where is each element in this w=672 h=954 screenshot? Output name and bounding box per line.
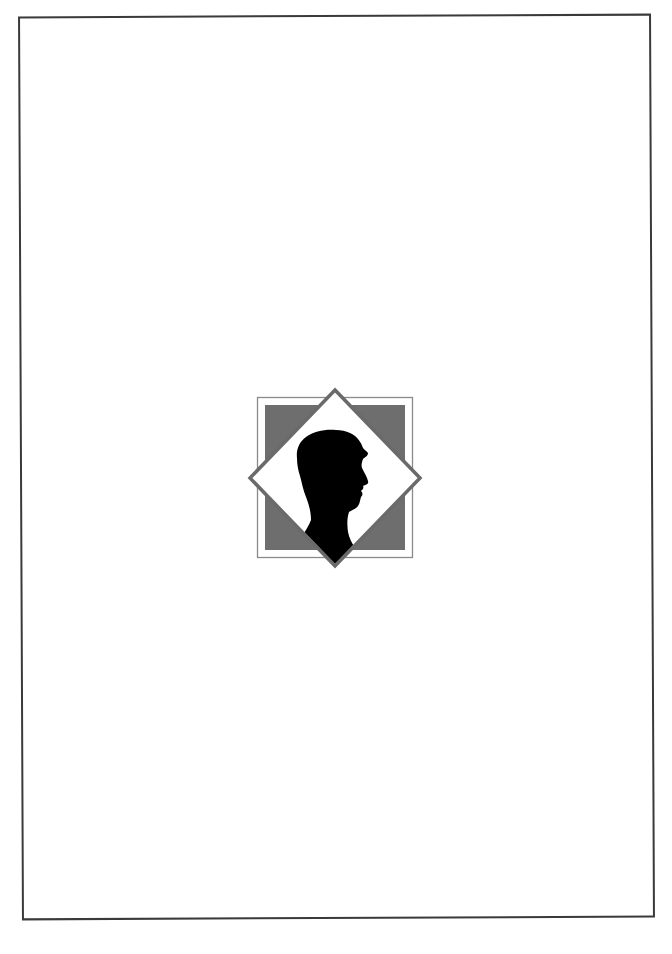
page-frame-border [18, 14, 655, 921]
